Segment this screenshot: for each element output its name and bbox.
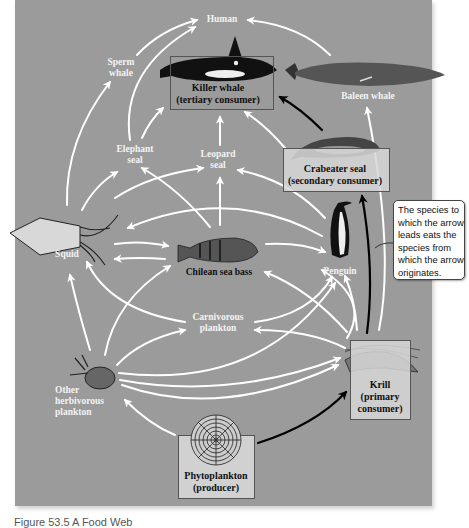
figure-caption: Figure 53.5 A Food Web	[14, 516, 132, 528]
legend-callout: The species to which the arrow leads eat…	[393, 200, 465, 280]
